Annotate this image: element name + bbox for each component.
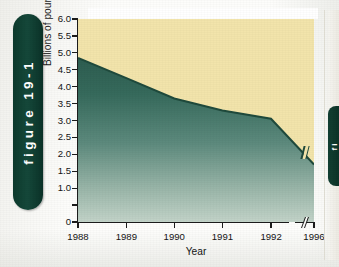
y-axis-tick-label: 3.5 [31,99,71,109]
x-axis-line-left [77,222,289,223]
x-axis-tick-label: 1988 [55,231,101,242]
y-axis-tick-label: 3.0 [31,116,71,126]
x-axis-title: Year [78,246,314,257]
figure-number-tab: figure 19-1 [13,14,43,210]
y-axis-tick [72,188,78,189]
y-axis-tick-label: 5.0 [31,48,71,58]
y-axis-tick [72,86,78,87]
adjacent-figure-tab: fi [328,106,339,186]
plot-area [78,19,314,222]
paper-glare [88,8,318,19]
y-axis-tick [72,69,78,70]
x-axis-tick [126,222,127,228]
y-axis-tick-label: 4.5 [31,65,71,75]
y-axis-tick-label: 1.0 [31,183,71,193]
y-axis-tick-label: 4.0 [31,82,71,92]
adjacent-figure-tab-label: fi [329,142,338,151]
y-axis-tick [72,154,78,155]
y-axis-tick [72,120,78,121]
area-chart-figure: Billions of pounds [48,8,323,260]
adjacent-figure-edge: fi [324,10,339,260]
y-axis-tick [72,171,78,172]
y-axis-tick-label: 2.5 [31,132,71,142]
y-axis-tick [72,204,78,205]
x-axis-tick [77,222,78,228]
y-axis-tick [72,52,78,53]
y-axis-tick [72,18,78,19]
y-axis-tick-label: 6.0 [31,14,71,24]
scanned-page: figure 19-1 Billions of pounds [0,0,339,267]
x-axis-tick [313,222,314,228]
y-axis-tick-label: 0 [31,217,71,227]
y-axis-tick-label: 2.0 [31,149,71,159]
x-axis-tick [222,222,223,228]
y-axis-tick [72,35,78,36]
x-axis-tick-label: 1990 [151,231,197,242]
plot-surface [78,19,314,222]
x-axis-tick [174,222,175,228]
x-axis-tick-label: 1992 [248,231,294,242]
x-axis-tick-label: 1991 [199,231,245,242]
x-axis-tick [270,222,271,228]
y-axis-tick [72,137,78,138]
y-axis-tick-label: 1.5 [31,166,71,176]
y-axis-tick [72,103,78,104]
x-axis-tick-label: 1989 [103,231,149,242]
area-chart-svg [78,19,314,222]
y-axis-tick-label: 5.5 [31,31,71,41]
